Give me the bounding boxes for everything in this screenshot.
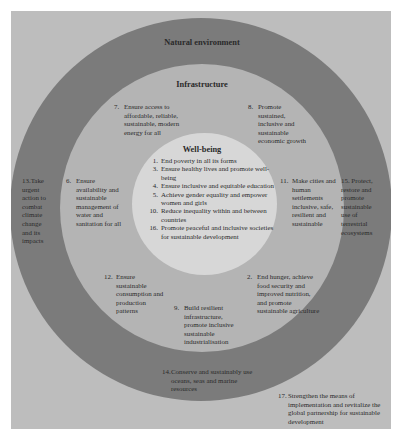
goal-2: 2. End hunger, achieve food security and… <box>247 273 321 316</box>
goal-1: 1. End poverty in all its forms <box>147 157 277 165</box>
goal-6: 6. Ensure availability and sustainable m… <box>66 177 126 229</box>
goal-3: 3. Ensure healthy lives and promote well… <box>147 165 277 182</box>
goal-4: 4. Ensure inclusive and equitable educat… <box>147 182 277 190</box>
goal-16: 16. Promote peaceful and inclusive socie… <box>147 224 277 241</box>
goal-8: 8. Promote sustained, inclusive and sust… <box>248 103 310 146</box>
goal-17: 17. Strengthen the means of implementati… <box>278 392 392 426</box>
goal-15: 15. Protect, restore and promote sustain… <box>341 177 379 237</box>
goal-14: 14. Conserve and sustainably use oceans,… <box>162 368 253 394</box>
infrastructure-title: Infrastructure <box>160 80 244 89</box>
wellbeing-title: Well-being <box>170 145 234 154</box>
goal-5: 5. Achieve gender equality and empower w… <box>147 191 277 208</box>
goal-7: 7. Ensure access to affordable, reliable… <box>114 103 190 137</box>
goal-13: 13.Take urgent action to combat climate … <box>22 177 50 246</box>
goal-10: 10. Reduce inequality within and between… <box>147 207 277 224</box>
goal-9: 9. Build resilient infrastructure, promo… <box>174 304 246 347</box>
wellbeing-goals-list: 1. End poverty in all its forms 3. Ensur… <box>147 157 277 241</box>
goal-12: 12. Ensure sustainable consumption and p… <box>104 273 164 316</box>
natural-environment-title: Natural environment <box>140 38 264 47</box>
goal-11: 11. Make cities and human settlements in… <box>280 177 336 229</box>
